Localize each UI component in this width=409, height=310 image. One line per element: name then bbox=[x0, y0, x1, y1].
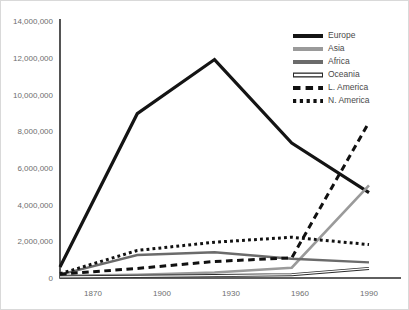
x-tick-label: 1960 bbox=[291, 289, 309, 298]
chart-series-group bbox=[60, 60, 369, 277]
legend-label-africa: Africa bbox=[328, 56, 350, 66]
chart-axis-lines bbox=[60, 19, 401, 278]
legend-label-europe: Europe bbox=[328, 30, 356, 40]
chart-legend: Europe Asia Africa Oceania L. America N.… bbox=[293, 30, 370, 105]
legend-label-l-america: L. America bbox=[328, 82, 368, 92]
legend-label-oceania: Oceania bbox=[328, 69, 360, 79]
x-tick-label: 1900 bbox=[153, 289, 171, 298]
y-tick-label: 0 bbox=[49, 274, 54, 283]
series-line-n-america bbox=[60, 237, 369, 274]
y-tick-label: 14,000,000 bbox=[13, 17, 54, 26]
x-tick-label: 1930 bbox=[222, 289, 240, 298]
line-chart-figure: 14,000,000 12,000,000 10,000,000 8,000,0… bbox=[0, 0, 409, 310]
y-tick-label: 12,000,000 bbox=[13, 54, 54, 63]
y-axis-tick-labels: 14,000,000 12,000,000 10,000,000 8,000,0… bbox=[13, 17, 54, 283]
legend-label-asia: Asia bbox=[328, 43, 345, 53]
legend-label-n-america: N. America bbox=[328, 95, 370, 105]
x-axis-tick-labels: 1870 1900 1930 1960 1990 bbox=[84, 289, 378, 298]
y-tick-label: 2,000,000 bbox=[17, 237, 53, 246]
y-tick-label: 10,000,000 bbox=[13, 91, 54, 100]
chart-plot-area: 14,000,000 12,000,000 10,000,000 8,000,0… bbox=[1, 1, 409, 310]
x-tick-label: 1870 bbox=[84, 289, 102, 298]
y-tick-label: 6,000,000 bbox=[17, 164, 53, 173]
y-tick-label: 8,000,000 bbox=[17, 127, 53, 136]
y-tick-label: 4,000,000 bbox=[17, 201, 53, 210]
legend-swatch-group bbox=[293, 36, 323, 101]
x-tick-label: 1990 bbox=[360, 289, 378, 298]
